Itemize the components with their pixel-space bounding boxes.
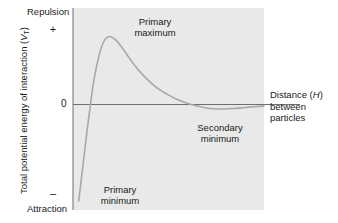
primary-minimum-line-1: Primary bbox=[85, 184, 155, 195]
x-axis-title-pre: Distance ( bbox=[270, 89, 313, 100]
y-axis-title-close: ) bbox=[18, 27, 29, 30]
x-axis-title-post: ) bbox=[320, 89, 323, 100]
primary-minimum-line-2: minimum bbox=[85, 195, 155, 206]
primary-maximum-line-2: maximum bbox=[113, 27, 197, 38]
secondary-minimum-annotation: Secondary minimum bbox=[178, 122, 262, 144]
primary-maximum-line-1: Primary bbox=[113, 16, 197, 27]
primary-maximum-annotation: Primary maximum bbox=[113, 16, 197, 38]
plus-sign-label: + bbox=[27, 24, 79, 35]
y-axis-title-symbol: V bbox=[18, 34, 29, 40]
x-axis-title-line-3: particles bbox=[270, 112, 323, 124]
secondary-minimum-line-2: minimum bbox=[178, 133, 262, 144]
y-axis-zero-tick-label: 0 bbox=[61, 98, 67, 109]
x-axis-title-symbol: H bbox=[313, 89, 320, 100]
potential-energy-curve bbox=[79, 36, 264, 201]
x-axis-title: Distance (H) between particles bbox=[270, 89, 323, 124]
y-axis-title: Total potential energy of interaction (V… bbox=[18, 10, 31, 210]
x-axis-title-line-1: Distance (H) bbox=[270, 89, 323, 101]
minus-sign-label: – bbox=[27, 188, 79, 199]
x-axis-title-line-2: between bbox=[270, 101, 323, 113]
attraction-label: Attraction bbox=[27, 203, 67, 214]
dlvo-potential-energy-figure: Repulsion + – Attraction 0 Total potenti… bbox=[0, 0, 338, 223]
primary-minimum-annotation: Primary minimum bbox=[85, 184, 155, 206]
repulsion-label: Repulsion bbox=[27, 6, 69, 17]
y-axis-title-subscript: T bbox=[23, 30, 30, 34]
y-axis-title-text: Total potential energy of interaction ( bbox=[18, 41, 29, 194]
secondary-minimum-line-1: Secondary bbox=[178, 122, 262, 133]
